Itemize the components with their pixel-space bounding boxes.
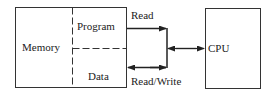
data-label: Data (88, 70, 109, 82)
memory-label: Memory (22, 41, 60, 53)
program-label: Program (77, 20, 115, 32)
cpu-label: CPU (208, 42, 229, 54)
read-label: Read (131, 9, 154, 21)
read-write-label: Read/Write (131, 75, 181, 87)
